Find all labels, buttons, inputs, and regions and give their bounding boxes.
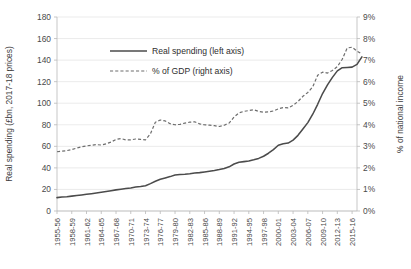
- x-axis-tick-labels: 1955-561958-591961-621964-651967-681970-…: [53, 211, 357, 246]
- y2-tick-label: 9%: [363, 12, 376, 22]
- y-tick-label: 20: [42, 184, 52, 194]
- y-axis-title: Real spending (£bn, 2017-18 prices): [4, 46, 14, 182]
- y2-tick-label: 5%: [363, 98, 376, 108]
- x-tick-label: 1979-80: [171, 218, 180, 246]
- legend-label-real-spending: Real spending (left axis): [152, 46, 244, 56]
- y-tick-label: 0: [46, 206, 51, 216]
- x-tick-label: 2009-10: [319, 218, 328, 246]
- x-tick-label: 1976-77: [156, 218, 165, 246]
- y2-axis-title: % of national income: [395, 75, 405, 153]
- series-line-pct-gdp: [57, 47, 362, 152]
- x-tick-label: 2015-16: [348, 218, 357, 246]
- x-tick-label: 1964-65: [97, 218, 106, 246]
- y2-tick-label: 0%: [363, 206, 376, 216]
- x-tick-label: 1955-56: [53, 218, 62, 246]
- y-tick-label: 180: [37, 12, 51, 22]
- y2-tick-label: 7%: [363, 55, 376, 65]
- x-tick-label: 1958-59: [68, 218, 77, 246]
- y-axis-tick-labels: 020406080100120140160180: [37, 12, 57, 216]
- y2-tick-label: 2%: [363, 163, 376, 173]
- y-tick-label: 160: [37, 34, 51, 44]
- series-line-real-spending: [57, 57, 362, 198]
- x-tick-label: 1985-86: [201, 218, 210, 246]
- y2-tick-label: 4%: [363, 120, 376, 130]
- y2-axis-tick-labels: 0%1%2%3%4%5%6%7%8%9%: [357, 12, 376, 216]
- x-tick-label: 1973-74: [142, 218, 151, 246]
- x-tick-label: 1961-62: [83, 218, 92, 246]
- x-tick-label: 1970-71: [127, 218, 136, 246]
- y2-tick-label: 8%: [363, 34, 376, 44]
- chart-container: 020406080100120140160180 0%1%2%3%4%5%6%7…: [0, 0, 411, 269]
- y2-tick-label: 3%: [363, 141, 376, 151]
- line-chart: 020406080100120140160180 0%1%2%3%4%5%6%7…: [0, 0, 411, 269]
- x-tick-label: 1991-92: [230, 218, 239, 246]
- y-tick-label: 140: [37, 55, 51, 65]
- x-tick-label: 2006-07: [304, 218, 313, 246]
- x-tick-label: 1994-95: [245, 218, 254, 246]
- chart-legend: Real spending (left axis) % of GDP (righ…: [110, 46, 244, 76]
- y-tick-label: 100: [37, 98, 51, 108]
- y-tick-label: 120: [37, 77, 51, 87]
- x-tick-label: 1997-98: [260, 218, 269, 246]
- x-tick-label: 1988-89: [215, 218, 224, 246]
- x-tick-label: 2012-13: [333, 218, 342, 246]
- x-tick-label: 1967-68: [112, 218, 121, 246]
- y2-tick-label: 6%: [363, 77, 376, 87]
- x-tick-label: 2000-01: [274, 218, 283, 246]
- x-tick-label: 2003-04: [289, 218, 298, 246]
- y-tick-label: 80: [42, 120, 52, 130]
- y-tick-label: 60: [42, 141, 52, 151]
- x-tick-label: 1982-83: [186, 218, 195, 246]
- y-tick-label: 40: [42, 163, 52, 173]
- legend-label-pct-gdp: % of GDP (right axis): [152, 66, 233, 76]
- y2-tick-label: 1%: [363, 184, 376, 194]
